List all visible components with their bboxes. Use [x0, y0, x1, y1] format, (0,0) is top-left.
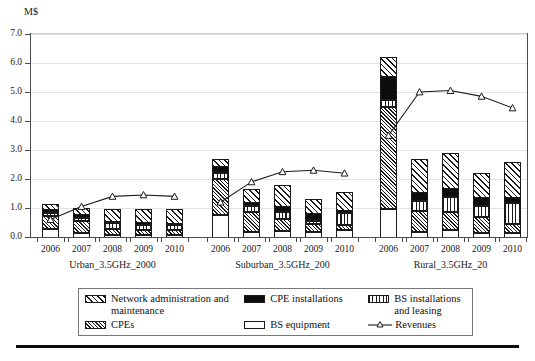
- bar-segment-cpe-installations: [412, 192, 427, 201]
- x-tick-mark: [95, 237, 96, 242]
- x-tick-label-2010: 2010: [329, 244, 361, 254]
- x-tick-label-2010: 2010: [159, 244, 191, 254]
- legend-item-cpes: CPEs: [85, 319, 244, 331]
- bar-segment-network-administration: [443, 154, 458, 188]
- y-tick-label: 4.0: [0, 115, 22, 125]
- bar-segment-bs-equipment: [105, 235, 120, 238]
- legend-label-revenues: Revenues: [395, 319, 436, 331]
- legend-swatch-revenues-line-icon: [368, 320, 392, 330]
- bar-segment-bs-equipment: [136, 235, 151, 237]
- x-tick-mark: [406, 237, 407, 242]
- x-tick-mark: [37, 237, 38, 242]
- bar-segment-cpes: [505, 224, 520, 233]
- bar-segment-bs-equipment: [167, 235, 182, 237]
- bar-segment-bs-installations: [412, 201, 427, 211]
- legend-item-revenues: Revenues: [368, 319, 466, 331]
- y-tick-label: 7.0: [0, 28, 22, 38]
- x-tick-mark: [207, 237, 208, 242]
- axis-bottom: [30, 237, 528, 238]
- bar-segment-cpes: [275, 219, 290, 231]
- y-tick-label: 1.0: [0, 202, 22, 212]
- bar-segment-network-administration: [412, 160, 427, 192]
- bar-segment-bs-equipment: [43, 229, 58, 237]
- stacked-bar: [104, 209, 121, 237]
- bottom-rule-divider: [16, 345, 519, 348]
- legend-label-cpe-installations: CPE installations: [270, 293, 343, 305]
- legend-swatch-bs-installations-icon: [368, 295, 389, 303]
- y-axis-unit-label: M$: [24, 6, 38, 17]
- x-tick-label-2006: 2006: [373, 244, 405, 254]
- bar-segment-cpes: [244, 212, 259, 232]
- bar-segment-cpe-installations: [381, 76, 396, 101]
- x-tick-mark: [468, 237, 469, 242]
- group-label: Rural_3.5GHz_20: [371, 259, 531, 270]
- x-tick-mark: [126, 237, 127, 242]
- bar-segment-bs-installations: [443, 197, 458, 212]
- x-tick-mark: [433, 237, 434, 242]
- bar-segment-network-administration: [244, 190, 259, 202]
- legend-swatch-cpe-installations-icon: [244, 295, 265, 303]
- x-tick-label-2009: 2009: [128, 244, 160, 254]
- stacked-bar: [380, 57, 397, 237]
- bar-segment-bs-installations: [337, 213, 352, 225]
- x-tick-label-2006: 2006: [205, 244, 237, 254]
- x-tick-mark: [464, 237, 465, 242]
- x-tick-mark: [402, 237, 403, 242]
- bar-segment-bs-equipment: [505, 233, 520, 237]
- bar-segment-bs-equipment: [381, 209, 396, 237]
- group-label: Urban_3.5GHz_2000: [33, 259, 193, 270]
- x-tick-label-2007: 2007: [404, 244, 436, 254]
- x-tick-label-2006: 2006: [35, 244, 67, 254]
- x-tick-label-2008: 2008: [97, 244, 129, 254]
- bar-segment-network-administration: [306, 200, 321, 213]
- stacked-bar: [166, 209, 183, 237]
- legend-label-bs-installations: BS installations and leasing: [394, 293, 466, 317]
- bar-segment-network-administration: [337, 193, 352, 210]
- group-label: Suburban_3.5GHz_200: [203, 259, 363, 270]
- legend-item-bs-installations: BS installations and leasing: [368, 293, 466, 317]
- x-tick-mark: [188, 237, 189, 242]
- x-tick-label-2010: 2010: [497, 244, 529, 254]
- bar-segment-network-administration: [275, 186, 290, 206]
- x-tick-label-2009: 2009: [466, 244, 498, 254]
- stacked-bar: [305, 199, 322, 237]
- y-tick-label: 6.0: [0, 57, 22, 67]
- chart-figure: M$ 0.01.02.03.04.05.06.07.0 200620072008…: [0, 0, 535, 361]
- x-tick-mark: [495, 237, 496, 242]
- x-tick-mark: [234, 237, 235, 242]
- x-tick-mark: [68, 237, 69, 242]
- x-tick-label-2008: 2008: [435, 244, 467, 254]
- bar-segment-cpe-installations: [474, 197, 489, 207]
- bar-segment-network-administration: [105, 210, 120, 221]
- x-tick-mark: [327, 237, 328, 242]
- legend-item-cpe-installations: CPE installations: [244, 293, 368, 305]
- stacked-bar: [473, 173, 490, 237]
- bar-segment-bs-equipment: [275, 231, 290, 237]
- bar-segment-bs-equipment: [306, 232, 321, 237]
- bar-segment-bs-installations: [474, 206, 489, 216]
- bar-segment-bs-equipment: [244, 232, 259, 237]
- bar-segment-bs-equipment: [337, 230, 352, 237]
- y-tick-label: 0.0: [0, 231, 22, 241]
- bar-segment-bs-equipment: [443, 230, 458, 237]
- plot-area: [30, 34, 528, 237]
- x-tick-mark: [269, 237, 270, 242]
- x-tick-mark: [358, 237, 359, 242]
- stacked-bar: [411, 159, 428, 237]
- y-tick-label: 3.0: [0, 144, 22, 154]
- x-tick-mark: [437, 237, 438, 242]
- legend-swatch-cpes-icon: [85, 321, 106, 329]
- bar-segment-cpes: [213, 179, 228, 214]
- bar-segment-network-administration: [381, 58, 396, 75]
- bar-segment-cpes: [74, 221, 89, 233]
- stacked-bar: [243, 189, 260, 237]
- bar-segment-network-administration: [167, 210, 182, 222]
- bar-segment-bs-equipment: [474, 233, 489, 237]
- legend-swatch-netadmin-icon: [85, 295, 106, 303]
- x-tick-mark: [526, 237, 527, 242]
- x-tick-label-2008: 2008: [267, 244, 299, 254]
- stacked-bar: [73, 208, 90, 237]
- y-tick-label: 5.0: [0, 86, 22, 96]
- x-tick-label-2007: 2007: [66, 244, 98, 254]
- bar-segment-bs-equipment: [213, 215, 228, 237]
